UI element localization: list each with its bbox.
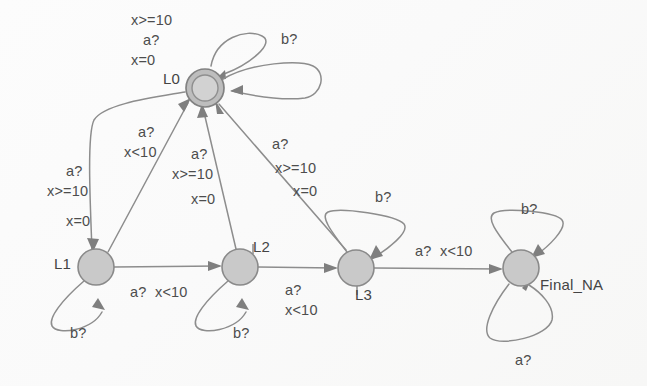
edge-label-l0-self-right: b?: [281, 31, 298, 48]
state-label-l2: L2: [253, 238, 270, 255]
edge-label-l0-self-top-line3: x=0: [131, 52, 155, 69]
edge-label-l2-to-l3-line1: a?: [285, 282, 302, 299]
edge-label-final-self-top: b?: [521, 201, 538, 218]
edge-label-l3-to-final: a? x<10: [415, 243, 473, 260]
edge-label-l1-to-l0-line2: x<10: [124, 144, 157, 161]
edge-label-l2-to-l0-line3: x=0: [191, 191, 215, 208]
state-label-l3: L3: [355, 286, 372, 303]
edge-label-l3-self: b?: [375, 189, 392, 206]
edge-label-l2-self: b?: [233, 325, 250, 342]
state-label-final-na: Final_NA: [540, 276, 603, 293]
state-node-l1[interactable]: [78, 249, 114, 285]
edge-label-l2-to-l0-line2: x>=10: [172, 166, 213, 183]
edge-label-l2-to-l3-line2: x<10: [285, 302, 318, 319]
edge-l0-self-top: [211, 33, 266, 80]
edge-label-l1-self: b?: [70, 325, 87, 342]
state-node-final-na[interactable]: [503, 250, 539, 286]
state-machine-graph: [0, 0, 647, 386]
edge-label-l0-to-l1-line3: x=0: [66, 213, 90, 230]
edge-label-l2-to-l0-line1: a?: [191, 146, 208, 163]
edge-l0-to-l1: [87, 92, 185, 252]
state-node-l0[interactable]: [186, 69, 224, 107]
edge-l2-self: [195, 281, 249, 331]
edge-label-l1-to-l0-line1: a?: [138, 124, 155, 141]
edge-label-l3-to-l0-line3: x=0: [293, 183, 317, 200]
edge-label-l0-to-l1-line1: a?: [66, 163, 83, 180]
edge-label-l3-to-l0-line2: x>=10: [275, 160, 316, 177]
state-label-l1: L1: [54, 255, 71, 272]
edge-l2-to-l3: [258, 263, 338, 273]
edge-label-l1-to-l2: a? x<10: [130, 284, 188, 301]
state-label-l0: L0: [163, 70, 180, 87]
edge-label-l0-self-top-line1: x>=10: [131, 12, 172, 29]
diagram-canvas: x>=10 a? x=0 b? L0 a? x<10 a? x>=10 x=0 …: [0, 0, 647, 386]
edge-label-l3-to-l0-line1: a?: [272, 136, 289, 153]
edge-l3-to-final: [374, 264, 503, 274]
edge-label-final-self-bottom: a?: [515, 352, 532, 369]
edge-label-l0-self-top-line2: a?: [143, 32, 160, 49]
edge-l1-to-l2: [114, 261, 222, 271]
edge-l1-self: [51, 281, 105, 331]
edge-label-l0-to-l1-line2: x>=10: [47, 183, 88, 200]
